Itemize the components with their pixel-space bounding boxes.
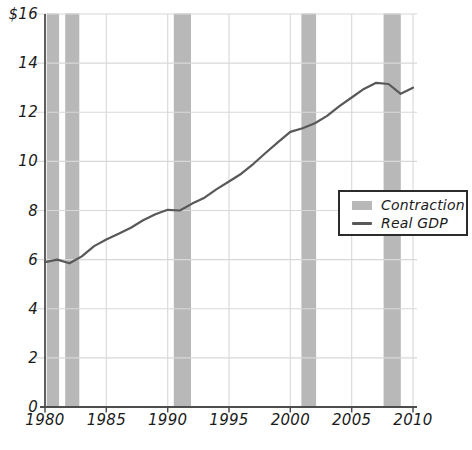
y-tick-label: 6 bbox=[0, 251, 38, 269]
x-tick-label: 1985 bbox=[74, 411, 138, 429]
contraction-band bbox=[301, 14, 316, 407]
contraction-swatch-icon bbox=[352, 201, 372, 210]
x-tick-label: 2010 bbox=[381, 411, 445, 429]
legend-item-real-gdp: Real GDP bbox=[352, 214, 466, 232]
real-gdp-line-swatch-icon bbox=[352, 222, 372, 225]
y-tick-label: $16 bbox=[0, 5, 38, 23]
legend-label-contraction: Contraction bbox=[381, 197, 465, 213]
x-tick-label: 1995 bbox=[197, 411, 261, 429]
y-tick-label: 4 bbox=[0, 300, 38, 318]
legend: Contraction Real GDP bbox=[338, 190, 468, 236]
y-tick-label: 12 bbox=[0, 103, 38, 121]
y-tick-label: 14 bbox=[0, 54, 38, 72]
x-tick-label: 2005 bbox=[320, 411, 384, 429]
x-tick-label: 1990 bbox=[136, 411, 200, 429]
contraction-band bbox=[47, 14, 59, 407]
legend-label-real-gdp: Real GDP bbox=[381, 215, 448, 231]
y-tick-label: 8 bbox=[0, 202, 38, 220]
x-tick-label: 1980 bbox=[13, 411, 77, 429]
x-tick-label: 2000 bbox=[258, 411, 322, 429]
y-tick-label: 2 bbox=[0, 349, 38, 367]
y-tick-label: 10 bbox=[0, 152, 38, 170]
real-gdp-chart: 02468101214$1619801985199019952000200520… bbox=[0, 0, 472, 450]
contraction-band bbox=[65, 14, 79, 407]
legend-item-contraction: Contraction bbox=[352, 196, 466, 214]
